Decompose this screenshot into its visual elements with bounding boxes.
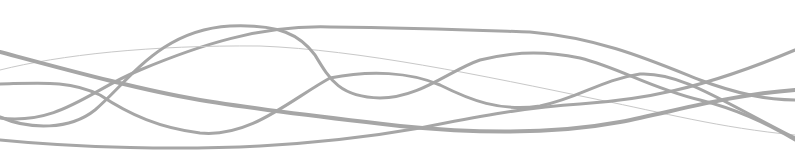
wave-lines-svg — [0, 0, 795, 166]
wave-low-rise-line — [0, 50, 795, 148]
decorative-wave-graphic — [0, 0, 795, 166]
